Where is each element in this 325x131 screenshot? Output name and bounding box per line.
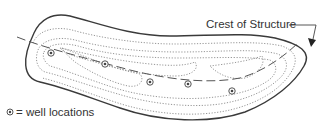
- contour-line-1: [33, 29, 295, 115]
- contour-line-3: [43, 44, 276, 99]
- crest-line: [17, 37, 297, 81]
- contour-line-2: [36, 38, 286, 105]
- crest-leader-arrowhead: [308, 38, 316, 47]
- well-1: [48, 50, 54, 56]
- structure-contour-map: Crest of Structure = well locations: [0, 0, 325, 131]
- well-4: [185, 81, 191, 87]
- legend-text: = well locations: [16, 106, 95, 118]
- well-2: [102, 61, 108, 67]
- contour-line-6: [210, 56, 263, 79]
- well-5: [229, 88, 235, 94]
- legend: = well locations: [7, 106, 95, 118]
- crest-label: Crest of Structure: [206, 18, 296, 30]
- well-symbol-icon: [7, 109, 13, 115]
- well-3: [147, 79, 153, 85]
